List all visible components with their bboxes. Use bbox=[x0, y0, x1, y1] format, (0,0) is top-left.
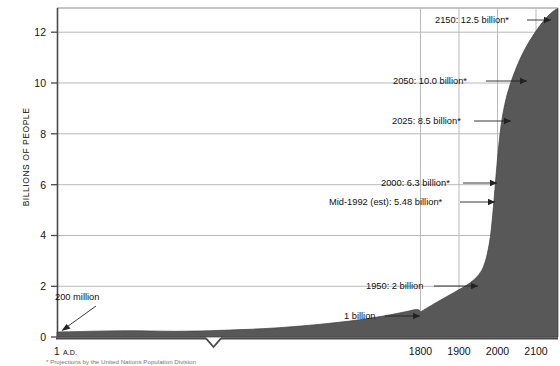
y-tick-label-0: 0 bbox=[40, 331, 46, 343]
chart-canvas: 12 10 8 6 4 2 0 1800 1900 2000 2100 1 A.… bbox=[0, 0, 560, 366]
y-tick-label-2: 2 bbox=[40, 280, 46, 292]
ann-1992-label: Mid-1992 (est): 5.48 billion* bbox=[329, 197, 443, 207]
x-origin-suffix: A.D. bbox=[63, 348, 77, 357]
y-tick-label-10: 10 bbox=[34, 77, 46, 89]
x-tick-label-2000: 2000 bbox=[486, 345, 510, 357]
x-origin-label: 1 bbox=[54, 346, 60, 357]
x-tick-label-1900: 1900 bbox=[447, 345, 471, 357]
y-tick-label-4: 4 bbox=[40, 229, 46, 241]
ann-2150-label: 2150: 12.5 billion* bbox=[435, 15, 509, 25]
x-tick-label-1800: 1800 bbox=[409, 345, 433, 357]
axis-break-notch bbox=[206, 338, 221, 347]
x-tick-label-2100: 2100 bbox=[524, 345, 548, 357]
population-growth-chart: BILLIONS OF PEOPLE bbox=[0, 0, 560, 366]
y-tick-label-6: 6 bbox=[40, 179, 46, 191]
ann-200m-label: 200 million bbox=[55, 292, 99, 302]
chart-footnote: * Projections by the United Nations Popu… bbox=[46, 358, 197, 365]
y-tick-label-8: 8 bbox=[40, 128, 46, 140]
ann-2000-label: 2000: 6.3 billion* bbox=[381, 178, 450, 188]
ann-1950-label: 1950: 2 billion bbox=[366, 281, 423, 291]
ann-2025-label: 2025: 8.5 billion* bbox=[392, 116, 461, 126]
ann-2050-label: 2050: 10.0 billion* bbox=[393, 76, 467, 86]
ann-1b-label: 1 billion bbox=[344, 311, 376, 321]
y-tick-label-12: 12 bbox=[34, 26, 46, 38]
